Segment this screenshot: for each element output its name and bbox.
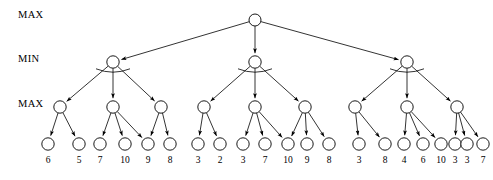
leaf-value-4: 9 [146, 155, 151, 165]
leaf-node-5[interactable] [164, 138, 176, 150]
edge-root-to-min-2 [261, 22, 399, 60]
edge-max-to-leaf-10 [257, 113, 263, 136]
leaf-node-6[interactable] [192, 138, 204, 150]
row-label-max-2: MAX [18, 98, 44, 109]
edge-max-to-leaf-13 [305, 113, 306, 135]
leaf-value-1: 5 [77, 155, 82, 165]
leaf-node-19[interactable] [461, 138, 473, 150]
leaf-value-10: 10 [283, 155, 293, 165]
max-node-2[interactable] [155, 101, 167, 113]
leaf-value-6: 3 [196, 155, 201, 165]
leaf-node-15[interactable] [398, 138, 410, 150]
edge-min-to-max-5 [260, 66, 299, 101]
edge-max-to-leaf-14 [308, 112, 324, 136]
max-node-8[interactable] [451, 101, 463, 113]
edges-group [51, 22, 478, 138]
leaf-value-16: 6 [421, 155, 426, 165]
edge-max-to-leaf-0 [51, 113, 58, 136]
leaf-value-3: 10 [120, 155, 130, 165]
edge-max-to-leaf-20 [455, 113, 456, 135]
leaf-value-17: 10 [436, 155, 446, 165]
edge-max-to-leaf-17 [405, 113, 407, 135]
max-node-5[interactable] [299, 101, 311, 113]
max-node-6[interactable] [349, 101, 361, 113]
leaf-node-18[interactable] [449, 138, 461, 150]
max-node-7[interactable] [401, 101, 413, 113]
edge-max-to-leaf-7 [199, 113, 203, 135]
leaf-node-2[interactable] [94, 138, 106, 150]
leaf-value-9: 7 [263, 155, 268, 165]
leaf-node-1[interactable] [73, 138, 85, 150]
leaf-value-2: 7 [98, 155, 103, 165]
edge-min-to-max-6 [362, 66, 403, 101]
leaf-node-16[interactable] [417, 138, 429, 150]
min-node-1[interactable] [249, 56, 261, 68]
fan-arcs-group [96, 69, 424, 72]
edge-min-to-max-0 [67, 66, 109, 101]
leaf-node-0[interactable] [42, 138, 54, 150]
leaf-node-12[interactable] [323, 138, 335, 150]
leaf-value-19: 3 [465, 155, 470, 165]
min-node-0[interactable] [107, 56, 119, 68]
edge-max-to-leaf-16 [359, 112, 380, 137]
leaf-node-14[interactable] [379, 138, 391, 150]
leaf-value-7: 2 [218, 155, 223, 165]
edge-max-to-leaf-15 [356, 113, 358, 135]
edge-max-to-leaf-8 [206, 113, 216, 136]
leaf-values-group: 657109832371098384610337 [46, 155, 486, 165]
row-labels-group: MAXMINMAX [18, 9, 44, 109]
max-node-0[interactable] [54, 101, 66, 113]
edge-max-to-leaf-1 [63, 113, 75, 137]
leaf-value-5: 8 [168, 155, 173, 165]
edge-max-to-leaf-5 [151, 113, 159, 136]
leaf-value-0: 6 [46, 155, 51, 165]
edge-max-to-leaf-9 [246, 113, 253, 136]
root-node-max[interactable] [249, 14, 261, 26]
edge-max-to-leaf-4 [117, 112, 142, 138]
leaf-value-15: 4 [402, 155, 407, 165]
edge-max-to-leaf-18 [409, 113, 419, 136]
edge-min-to-max-8 [412, 66, 451, 101]
leaf-node-10[interactable] [282, 138, 294, 150]
leaf-node-8[interactable] [237, 138, 249, 150]
leaf-node-17[interactable] [435, 138, 447, 150]
leaf-value-14: 8 [383, 155, 388, 165]
leaf-node-20[interactable] [477, 138, 489, 150]
max-node-3[interactable] [198, 101, 210, 113]
edge-max-to-leaf-2 [103, 113, 111, 136]
min-node-2[interactable] [401, 56, 413, 68]
edge-max-to-leaf-6 [162, 113, 167, 135]
leaf-node-3[interactable] [119, 138, 131, 150]
max-node-1[interactable] [107, 101, 119, 113]
minimax-tree-figure: MAXMINMAX 657109832371098384610337 [0, 0, 493, 180]
leaf-node-4[interactable] [142, 138, 154, 150]
leaf-value-20: 7 [481, 155, 486, 165]
edge-max-to-leaf-12 [292, 113, 303, 136]
leaf-value-11: 9 [305, 155, 310, 165]
edge-min-to-max-3 [211, 66, 251, 101]
edge-max-to-leaf-3 [115, 113, 122, 136]
leaf-node-13[interactable] [353, 138, 365, 150]
tree-canvas: MAXMINMAX 657109832371098384610337 [0, 0, 493, 180]
leaf-node-9[interactable] [259, 138, 271, 150]
nodes-group [42, 14, 489, 150]
leaf-value-18: 3 [453, 155, 458, 165]
leaf-node-7[interactable] [214, 138, 226, 150]
edge-min-to-max-2 [118, 66, 155, 101]
leaf-value-8: 3 [241, 155, 246, 165]
max-node-4[interactable] [249, 101, 261, 113]
edge-max-to-leaf-22 [461, 112, 478, 137]
row-label-max-0: MAX [18, 9, 44, 20]
row-label-min-1: MIN [18, 53, 39, 64]
leaf-value-13: 3 [357, 155, 362, 165]
leaf-value-12: 8 [327, 155, 332, 165]
leaf-node-11[interactable] [301, 138, 313, 150]
edge-root-to-min-0 [121, 22, 249, 60]
